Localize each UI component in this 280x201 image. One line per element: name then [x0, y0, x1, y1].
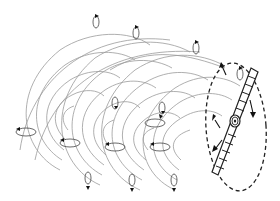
- rotation-marker: [16, 127, 36, 136]
- rotation-marker: [60, 138, 80, 147]
- diagram-canvas: [0, 0, 280, 201]
- rotation-marker: [145, 114, 165, 127]
- rotation-marker: [150, 142, 170, 151]
- rotation-marker: [93, 14, 99, 28]
- rotation-marker: [85, 172, 91, 190]
- wake-spiral-2: [62, 42, 190, 185]
- rotation-marker: [159, 102, 165, 114]
- wake-spirals: [20, 34, 240, 190]
- rotation-marker: [133, 25, 139, 39]
- hub-icon: [230, 115, 240, 127]
- rotation-marker: [129, 174, 135, 192]
- rotation-marker: [237, 66, 243, 80]
- helical-wake-diagram: [0, 0, 280, 201]
